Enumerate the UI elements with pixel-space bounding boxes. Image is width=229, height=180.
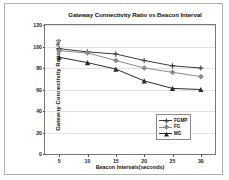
y-tick-label: 20: [22, 130, 42, 136]
legend-item-fgmp: FGMP: [159, 118, 187, 124]
x-tick-mark: [88, 154, 89, 157]
legend-label: MG: [174, 131, 181, 137]
y-tick-label: 40: [22, 108, 42, 114]
legend-label: FG: [174, 124, 180, 130]
legend-marker-triangle-icon: [164, 131, 169, 137]
data-point-diamond: [198, 74, 203, 79]
data-point-diamond: [113, 58, 118, 63]
x-tick-mark: [201, 154, 202, 157]
data-point-plus: [198, 65, 203, 70]
chart-frame: Gateway Connectivity Ratio vs Beacon Int…: [4, 3, 223, 175]
series-line-fg: [59, 51, 201, 77]
y-tick-label: 120: [22, 22, 42, 28]
data-point-diamond: [170, 70, 175, 75]
data-point-plus: [113, 51, 118, 56]
legend-swatch-icon: [159, 131, 172, 137]
y-tick-label: 60: [22, 87, 42, 93]
x-axis-title: Beacon Intervals(seconds): [45, 164, 215, 170]
legend-item-mg: MG: [159, 131, 187, 137]
chart-title: Gateway Connectivity Ratio vs Beacon Int…: [45, 11, 225, 18]
legend-marker-diamond-icon: [164, 124, 169, 130]
y-tick-label: 0: [22, 151, 42, 157]
y-tick-mark: [43, 154, 45, 155]
x-tick-mark: [173, 154, 174, 157]
data-point-diamond: [85, 50, 90, 55]
data-point-plus: [142, 58, 147, 63]
legend-swatch-icon: [159, 118, 172, 124]
legend-swatch-icon: [159, 124, 172, 130]
legend-label: FGMP: [174, 118, 187, 124]
y-tick-label: 80: [22, 65, 42, 71]
data-point-plus: [170, 63, 175, 68]
y-tick-label: 100: [22, 44, 42, 50]
chart-legend: FGMPFGMG: [156, 114, 191, 140]
x-tick-mark: [116, 154, 117, 157]
data-point-plus: [164, 118, 169, 123]
legend-item-fg: FG: [159, 124, 187, 130]
data-point-diamond: [142, 65, 147, 70]
plot-area: Gateway Connectivity Ratio ( %) 02040608…: [44, 24, 216, 155]
x-tick-mark: [144, 154, 145, 157]
series-line-fgmp: [59, 49, 201, 68]
data-point-triangle: [164, 131, 169, 136]
data-point-diamond: [164, 124, 169, 129]
legend-marker-plus-icon: [164, 118, 169, 124]
x-tick-mark: [59, 154, 60, 157]
